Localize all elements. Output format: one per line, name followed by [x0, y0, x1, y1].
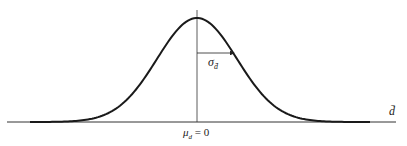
mean-label: μd = 0: [183, 126, 209, 141]
bell-curve: [30, 18, 370, 122]
mean-subscript: d: [189, 133, 193, 141]
mean-value: = 0: [195, 126, 209, 138]
sigma-subscript: d̄: [214, 62, 218, 71]
axis-label: d̄: [389, 104, 395, 119]
sigma-label: σd̄: [208, 55, 218, 71]
normal-curve-figure: [0, 0, 407, 146]
